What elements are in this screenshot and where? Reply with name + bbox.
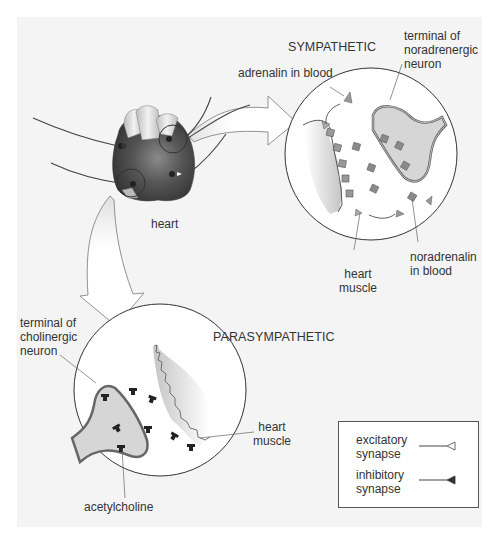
excitatory-synapse-icon bbox=[447, 442, 455, 450]
inhibitory-synapse-icon bbox=[447, 476, 455, 484]
heart-illustration bbox=[113, 106, 195, 201]
arrow-to-sympathetic bbox=[188, 96, 296, 145]
sympathetic-magnified-view bbox=[285, 64, 457, 250]
label-heart-muscle-parasympathetic: heart muscle bbox=[253, 420, 291, 448]
label-heart: heart bbox=[151, 217, 178, 231]
sympathetic-title: SYMPATHETIC bbox=[288, 40, 376, 54]
label-noradrenalin-in-blood: noradrenalin in blood bbox=[410, 250, 477, 278]
label-terminal-noradrenergic: terminal of noradrenergic neuron bbox=[404, 29, 478, 71]
label-terminal-cholinergic: terminal of cholinergic neuron bbox=[20, 316, 77, 358]
label-adrenalin-in-blood: adrenalin in blood bbox=[238, 66, 333, 80]
label-acetylcholine: acetylcholine bbox=[84, 500, 153, 514]
legend-item-inhibitory: inhibitory synapse bbox=[356, 468, 404, 496]
parasympathetic-title: PARASYMPATHETIC bbox=[213, 330, 335, 344]
label-heart-muscle-sympathetic: heart muscle bbox=[339, 267, 377, 295]
arrow-to-parasympathetic bbox=[80, 196, 144, 326]
legend: excitatory synapse inhibitory synapse bbox=[338, 421, 479, 508]
